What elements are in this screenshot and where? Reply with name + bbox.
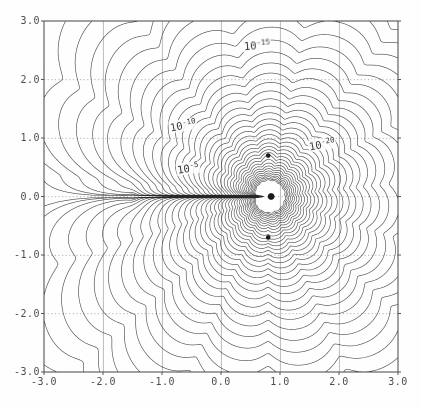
contour-label-exponent: -15: [256, 37, 270, 47]
y-tick-label: 1.0: [0, 133, 40, 143]
x-tick-label: 3.0: [378, 377, 418, 387]
contour-plot-canvas: [0, 0, 421, 410]
contour-label-exponent: -5: [189, 160, 199, 170]
y-tick-label: 2.0: [0, 75, 40, 85]
contour-figure: -3.0-2.0-1.00.01.02.03.0 3.02.01.00.0-1.…: [0, 0, 421, 410]
contour-label-base: 10: [244, 39, 257, 52]
x-tick-label: -2.0: [83, 377, 123, 387]
contour-label-exponent: -10: [182, 116, 197, 127]
y-tick-label: -1.0: [0, 250, 40, 260]
x-tick-label: 0.0: [201, 377, 241, 387]
contour-label: 10-15: [243, 38, 272, 51]
y-tick-label: -2.0: [0, 309, 40, 319]
x-tick-label: -3.0: [24, 377, 64, 387]
y-tick-label: -3.0: [0, 367, 40, 377]
x-tick-label: -1.0: [142, 377, 182, 387]
y-tick-label: 3.0: [0, 16, 40, 26]
x-tick-label: 1.0: [260, 377, 300, 387]
x-tick-label: 2.0: [319, 377, 359, 387]
contour-label-exponent: -20: [320, 135, 335, 146]
y-tick-label: 0.0: [0, 192, 40, 202]
